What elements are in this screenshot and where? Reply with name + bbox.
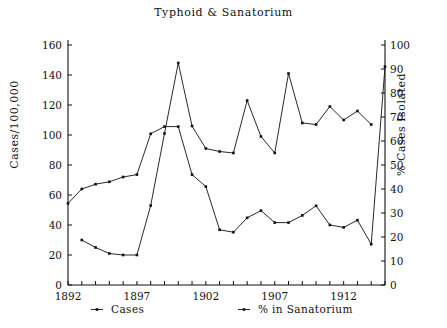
svg-text:Cases: Cases [111, 303, 144, 315]
axes-group [68, 40, 385, 285]
data-series-group [67, 62, 387, 257]
svg-text:50: 50 [390, 159, 403, 171]
svg-text:1907: 1907 [261, 290, 288, 302]
chart-plot-area: 020406080100120140160 010203040506070809… [0, 0, 447, 328]
svg-text:30: 30 [390, 207, 403, 219]
series-cases [80, 62, 372, 257]
svg-text:40: 40 [49, 219, 62, 231]
chart-root: Typhoid & Sanatorium Cases/100,000 % Cas… [0, 0, 447, 328]
svg-text:0: 0 [390, 279, 397, 291]
svg-text:90: 90 [390, 63, 403, 75]
svg-text:1897: 1897 [124, 290, 151, 302]
svg-text:% in Sanatorium: % in Sanatorium [258, 303, 353, 315]
svg-text:0: 0 [55, 279, 62, 291]
chart-legend: Cases% in Sanatorium [91, 303, 353, 315]
svg-text:1912: 1912 [330, 290, 357, 302]
svg-text:20: 20 [390, 231, 403, 243]
svg-text:80: 80 [390, 87, 403, 99]
svg-text:60: 60 [390, 135, 403, 147]
legend-item: Cases [91, 303, 144, 315]
svg-text:100: 100 [42, 129, 62, 141]
legend-item: % in Sanatorium [238, 303, 353, 315]
svg-text:40: 40 [390, 183, 403, 195]
svg-text:160: 160 [42, 39, 62, 51]
svg-text:20: 20 [49, 249, 62, 261]
svg-text:1902: 1902 [192, 290, 219, 302]
svg-text:140: 140 [42, 69, 62, 81]
svg-text:70: 70 [390, 111, 403, 123]
svg-text:120: 120 [42, 99, 62, 111]
x-axis-ticks: 18921897190219071912 [55, 281, 385, 302]
svg-text:80: 80 [49, 159, 62, 171]
svg-text:100: 100 [390, 39, 410, 51]
series-in-sanatorium [67, 65, 387, 245]
svg-text:60: 60 [49, 189, 62, 201]
svg-text:1892: 1892 [55, 290, 82, 302]
svg-text:10: 10 [390, 255, 403, 267]
